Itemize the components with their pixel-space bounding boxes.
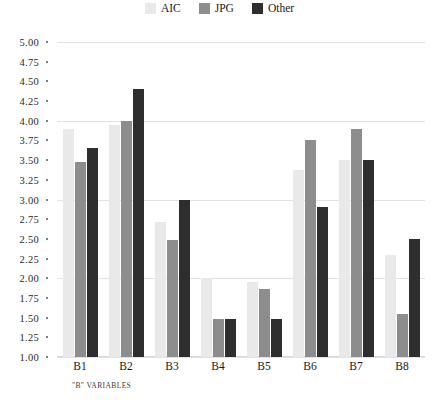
bar-group <box>149 42 195 357</box>
bar <box>397 314 408 357</box>
y-axis-tick-label: 2.25 <box>19 253 39 264</box>
y-axis-tick-label: 3.75 <box>19 135 39 146</box>
x-axis-tick-label: B6 <box>287 360 333 372</box>
y-axis-tick-mark <box>46 297 48 299</box>
y-axis-tick-mark <box>46 336 48 338</box>
x-axis-tick-label: B1 <box>57 360 103 372</box>
bar-group <box>287 42 333 357</box>
y-axis-tick-label: 2.50 <box>19 233 39 244</box>
legend-item: JPG <box>199 3 234 14</box>
y-axis-tick-mark <box>46 179 48 181</box>
y-axis-tick-label: 2.75 <box>19 214 39 225</box>
y-axis-tick-mark <box>46 120 48 122</box>
y-axis-tick-mark <box>46 100 48 102</box>
bar <box>213 319 224 357</box>
legend-swatch-icon <box>199 3 210 14</box>
y-axis-tick-mark <box>46 199 48 201</box>
y-axis-tick-mark <box>46 238 48 240</box>
x-axis-tick-label: B8 <box>379 360 425 372</box>
y-axis-tick-mark <box>46 159 48 161</box>
y-axis-tick-label: 1.50 <box>19 312 39 323</box>
bar <box>109 125 120 357</box>
bar <box>317 207 328 357</box>
bar <box>63 129 74 357</box>
y-axis-tick-label: 3.50 <box>19 155 39 166</box>
x-axis-labels: B1B2B3B4B5B6B7B8 <box>57 360 425 372</box>
legend-item: AIC <box>145 3 181 14</box>
y-axis-tick-mark <box>46 356 48 358</box>
y-axis-tick-label: 1.25 <box>19 332 39 343</box>
y-axis-tick-label: 4.75 <box>19 56 39 67</box>
bar <box>179 200 190 358</box>
bar <box>293 170 304 357</box>
bar-chart: AICJPGOther 5.004.754.504.254.003.753.50… <box>0 0 439 410</box>
bar <box>133 89 144 357</box>
bar-group <box>195 42 241 357</box>
x-axis-tick-label: B3 <box>149 360 195 372</box>
y-axis-tick-mark <box>46 61 48 63</box>
y-axis-tick-mark <box>46 80 48 82</box>
bar-group <box>241 42 287 357</box>
bar <box>201 278 212 357</box>
y-axis-tick-label: 5.00 <box>19 37 39 48</box>
y-axis-tick-label: 1.00 <box>19 352 39 363</box>
x-axis-tick-label: B2 <box>103 360 149 372</box>
y-axis: 5.004.754.504.254.003.753.503.253.002.75… <box>0 42 57 357</box>
x-axis-tick-label: B5 <box>241 360 287 372</box>
bar-group <box>379 42 425 357</box>
chart-legend: AICJPGOther <box>0 3 439 14</box>
y-axis-tick-label: 4.50 <box>19 76 39 87</box>
bar-group <box>103 42 149 357</box>
y-axis-tick-mark <box>46 41 48 43</box>
y-axis-tick-mark <box>46 139 48 141</box>
y-axis-tick-label: 4.00 <box>19 115 39 126</box>
y-axis-tick-label: 3.25 <box>19 174 39 185</box>
y-axis-tick-label: 3.00 <box>19 194 39 205</box>
bar-group <box>333 42 379 357</box>
bar <box>305 140 316 357</box>
y-axis-tick-mark <box>46 218 48 220</box>
y-axis-tick-mark <box>46 317 48 319</box>
x-axis-tick-label: B7 <box>333 360 379 372</box>
bar <box>259 289 270 358</box>
legend-swatch-icon <box>145 3 156 14</box>
bar <box>167 240 178 357</box>
legend-label: Other <box>268 3 294 14</box>
bar <box>87 148 98 357</box>
bar <box>351 129 362 357</box>
gridline <box>57 357 425 358</box>
y-axis-tick-mark <box>46 277 48 279</box>
bar <box>271 319 282 357</box>
bar <box>75 162 86 357</box>
plot-area <box>57 42 425 357</box>
y-axis-tick-mark <box>46 258 48 260</box>
x-axis-title: "B" VARIABLES <box>72 381 131 390</box>
legend-swatch-icon <box>252 3 263 14</box>
bar-group <box>57 42 103 357</box>
legend-label: AIC <box>161 3 181 14</box>
x-axis-tick-label: B4 <box>195 360 241 372</box>
legend-label: JPG <box>215 3 234 14</box>
bar <box>121 121 132 357</box>
bar <box>409 239 420 357</box>
y-axis-tick-label: 2.00 <box>19 273 39 284</box>
y-axis-tick-label: 4.25 <box>19 96 39 107</box>
bar <box>155 222 166 357</box>
bar <box>339 160 350 357</box>
legend-item: Other <box>252 3 294 14</box>
bar-groups <box>57 42 425 357</box>
bar <box>225 319 236 357</box>
bar <box>385 255 396 357</box>
bar <box>363 160 374 357</box>
bar <box>247 282 258 357</box>
y-axis-tick-label: 1.75 <box>19 292 39 303</box>
